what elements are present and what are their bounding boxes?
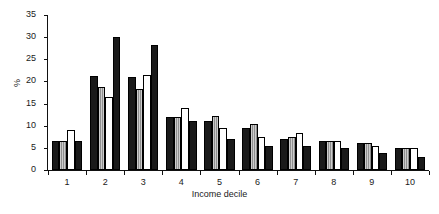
y-tick-label: 10: [12, 120, 36, 131]
bar: [143, 75, 151, 170]
x-tick-mark: [200, 171, 201, 175]
bar: [174, 117, 182, 170]
bar-group: [357, 15, 387, 170]
x-tick-label: 1: [52, 176, 82, 188]
bar: [372, 146, 380, 170]
bar: [242, 128, 250, 170]
bar: [113, 37, 121, 170]
bar: [227, 139, 235, 170]
bar: [166, 117, 174, 170]
bar: [219, 128, 227, 170]
bar-group: [242, 15, 272, 170]
x-tick-mark: [429, 171, 430, 175]
bar: [75, 141, 83, 170]
bar: [410, 148, 418, 170]
bar: [296, 133, 304, 170]
x-tick-label: 8: [319, 176, 349, 188]
x-tick-mark: [48, 171, 49, 175]
y-tick-label: 15: [12, 98, 36, 109]
bar: [98, 87, 106, 170]
bar: [288, 137, 296, 170]
bar: [136, 89, 144, 170]
bar: [90, 76, 98, 170]
bar: [379, 153, 387, 170]
bar: [303, 146, 311, 170]
bar: [280, 139, 288, 170]
bar: [395, 148, 403, 170]
bar-group: [280, 15, 310, 170]
bar: [341, 148, 349, 170]
bar: [258, 137, 266, 170]
bar-group: [166, 15, 196, 170]
bar-group: [395, 15, 425, 170]
x-tick-mark: [124, 171, 125, 175]
bar-group: [128, 15, 158, 170]
x-tick-label: 7: [281, 176, 311, 188]
bar: [189, 121, 197, 170]
x-tick-label: 10: [395, 176, 425, 188]
plot-area: [48, 15, 429, 170]
bar: [250, 124, 258, 171]
x-tick-mark: [277, 171, 278, 175]
bar: [319, 141, 327, 170]
x-tick-mark: [315, 171, 316, 175]
bar: [52, 141, 60, 170]
bar: [357, 143, 365, 170]
bar: [265, 146, 273, 170]
y-tick-label: 20: [12, 75, 36, 86]
x-tick-label: 6: [243, 176, 273, 188]
x-tick-label: 3: [128, 176, 158, 188]
bar: [105, 97, 113, 170]
bar: [67, 130, 75, 170]
y-tick-label: 0: [12, 164, 36, 175]
bar-chart: % 05101520253035 12345678910 Income deci…: [0, 0, 439, 214]
bar-group: [90, 15, 120, 170]
bar-group: [52, 15, 82, 170]
y-tick-label: 5: [12, 142, 36, 153]
bar-group: [319, 15, 349, 170]
x-axis-title: Income decile: [0, 189, 439, 199]
bar: [402, 148, 410, 170]
x-tick-mark: [162, 171, 163, 175]
bar: [364, 143, 372, 170]
y-tick-label: 25: [12, 53, 36, 64]
bar: [181, 108, 189, 170]
x-tick-mark: [391, 171, 392, 175]
bar-group: [204, 15, 234, 170]
x-tick-mark: [86, 171, 87, 175]
x-tick-mark: [239, 171, 240, 175]
x-tick-label: 4: [166, 176, 196, 188]
x-tick-label: 5: [204, 176, 234, 188]
y-tick-label: 35: [12, 9, 36, 20]
bar: [212, 116, 220, 170]
bar: [204, 121, 212, 170]
x-tick-mark: [353, 171, 354, 175]
bar: [418, 157, 426, 170]
bar: [59, 141, 67, 170]
y-tick-label: 30: [12, 31, 36, 42]
bar: [326, 141, 334, 170]
bar: [334, 141, 342, 170]
bar: [128, 77, 136, 170]
x-tick-label: 2: [90, 176, 120, 188]
x-tick-label: 9: [357, 176, 387, 188]
bar: [151, 45, 159, 170]
